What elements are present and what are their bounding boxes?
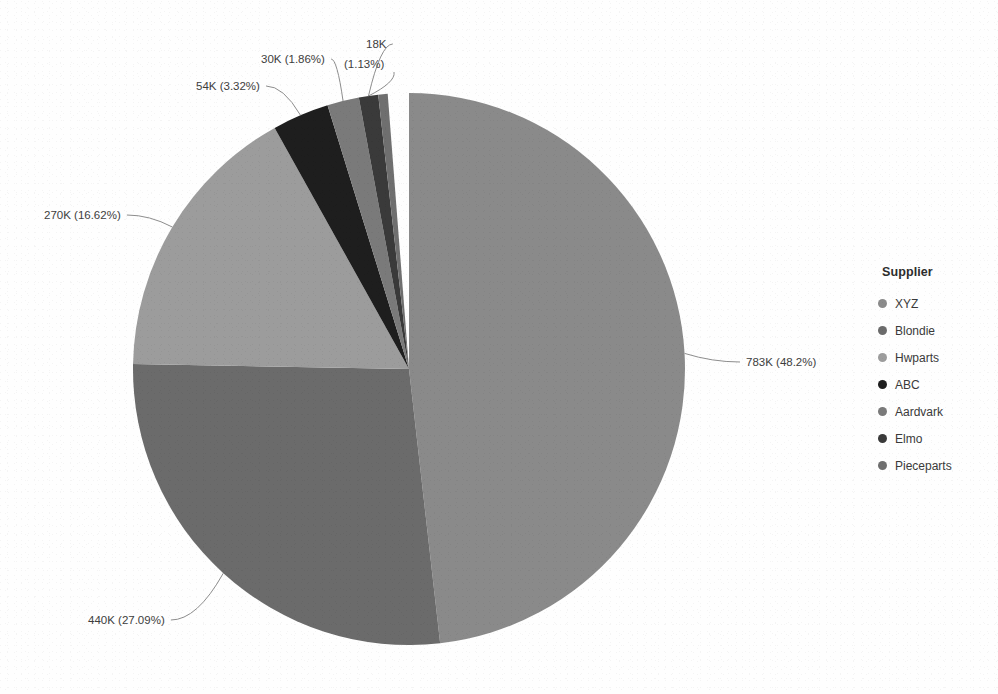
legend-item-label: Elmo [895, 432, 922, 446]
slice-label: 270K (16.62%) [44, 209, 121, 221]
slice-label: (1.13%) [344, 58, 384, 70]
legend-item-label: XYZ [895, 297, 918, 311]
legend-item[interactable]: Hwparts [878, 344, 998, 371]
legend-item-label: Hwparts [895, 351, 939, 365]
legend: Supplier XYZBlondieHwpartsABCAardvarkElm… [878, 265, 998, 479]
pie-chart-figure: 783K (48.2%)440K (27.09%)270K (16.62%)54… [0, 0, 998, 694]
legend-item[interactable]: Elmo [878, 425, 998, 452]
legend-item-label: ABC [895, 378, 920, 392]
legend-item[interactable]: ABC [878, 371, 998, 398]
slice-label: 783K (48.2%) [746, 356, 816, 368]
leader-line [331, 59, 343, 101]
legend-item-label: Aardvark [895, 405, 943, 419]
pie-slice[interactable] [409, 93, 685, 643]
leader-line [368, 72, 394, 96]
legend-item[interactable]: Aardvark [878, 398, 998, 425]
slice-label: 18K [366, 38, 387, 50]
legend-swatch-icon [878, 434, 887, 443]
leader-line [171, 573, 223, 620]
slice-label: 54K (3.32%) [196, 80, 260, 92]
leader-line [685, 353, 740, 362]
slice-label: 440K (27.09%) [88, 614, 165, 626]
legend-items: XYZBlondieHwpartsABCAardvarkElmoPiecepar… [878, 290, 998, 479]
legend-item[interactable]: XYZ [878, 290, 998, 317]
legend-swatch-icon [878, 353, 887, 362]
pie-chart-svg: 783K (48.2%)440K (27.09%)270K (16.62%)54… [0, 0, 998, 694]
leader-line [127, 215, 172, 227]
legend-swatch-icon [878, 326, 887, 335]
legend-swatch-icon [878, 461, 887, 470]
pie-slice[interactable] [133, 364, 440, 645]
legend-title: Supplier [882, 265, 998, 279]
legend-swatch-icon [878, 380, 887, 389]
slice-label: 30K (1.86%) [261, 53, 325, 65]
legend-item-label: Blondie [895, 324, 935, 338]
leader-line [266, 86, 300, 115]
legend-swatch-icon [878, 407, 887, 416]
legend-item-label: Pieceparts [895, 459, 952, 473]
legend-swatch-icon [878, 299, 887, 308]
pie-slices-group [133, 93, 685, 645]
legend-item[interactable]: Blondie [878, 317, 998, 344]
legend-item[interactable]: Pieceparts [878, 452, 998, 479]
